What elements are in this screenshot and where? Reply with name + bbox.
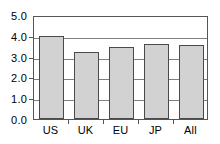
- bar-chart-figure: 0.01.02.03.04.05.0 USUKEUJPAll: [0, 0, 220, 144]
- x-axis-tick-label: UK: [78, 124, 94, 136]
- x-axis-tick-label: EU: [113, 124, 129, 136]
- x-axis-tick-mark: [103, 120, 104, 124]
- x-axis-tick-label: US: [43, 124, 59, 136]
- y-axis-tick-label: 5.0: [11, 10, 27, 22]
- bar: [39, 36, 64, 119]
- bar: [144, 44, 169, 120]
- y-axis-tick-label: 0.0: [11, 114, 27, 126]
- y-axis-tick-label: 4.0: [11, 31, 27, 43]
- x-axis-tick-label: JP: [149, 124, 162, 136]
- bar: [74, 52, 99, 119]
- x-axis-tick-mark: [68, 120, 69, 124]
- y-axis-tick-labels: 0.01.02.03.04.05.0: [0, 16, 31, 120]
- plot-area: [33, 16, 208, 120]
- bar: [109, 47, 134, 119]
- x-axis-tick-mark: [173, 120, 174, 124]
- bar: [179, 45, 204, 119]
- x-axis-tick-mark: [138, 120, 139, 124]
- x-axis-tick-label: All: [184, 124, 197, 136]
- y-axis-tick-label: 3.0: [11, 52, 27, 64]
- y-axis-tick-label: 2.0: [11, 72, 27, 84]
- y-axis-tick-label: 1.0: [11, 93, 27, 105]
